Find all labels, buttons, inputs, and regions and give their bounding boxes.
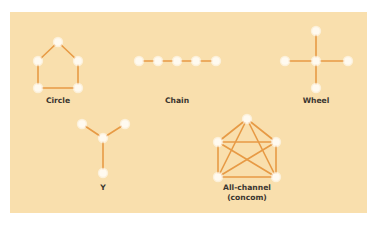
edge <box>218 119 247 142</box>
network-all-channel: All-channel(concom) <box>213 114 281 202</box>
network-label: Chain <box>165 96 189 105</box>
node <box>74 57 82 65</box>
node <box>272 173 280 181</box>
node <box>312 84 320 92</box>
node <box>243 115 251 123</box>
node <box>74 84 82 92</box>
node <box>34 57 42 65</box>
node <box>212 57 220 65</box>
node <box>214 138 222 146</box>
node <box>135 57 143 65</box>
node <box>344 57 352 65</box>
node <box>54 38 62 46</box>
network-circle: Circle <box>33 37 83 105</box>
network-label: (concom) <box>227 193 267 202</box>
node <box>214 173 222 181</box>
node <box>78 120 86 128</box>
network-diagram: Circle Chain Wheel Y All-channel(concom) <box>0 0 382 227</box>
node <box>281 57 289 65</box>
network-label: Circle <box>46 96 70 105</box>
node <box>34 84 42 92</box>
node <box>173 57 181 65</box>
node <box>272 138 280 146</box>
edge <box>247 119 276 142</box>
node <box>99 134 107 142</box>
network-y: Y <box>77 119 130 192</box>
network-label: All-channel <box>223 183 271 192</box>
network-wheel: Wheel <box>280 26 353 105</box>
node <box>312 57 320 65</box>
node <box>192 57 200 65</box>
network-label: Wheel <box>303 96 330 105</box>
node <box>99 169 107 177</box>
node <box>312 27 320 35</box>
node <box>121 120 129 128</box>
node <box>154 57 162 65</box>
network-chain: Chain <box>134 56 221 105</box>
network-label: Y <box>99 183 106 192</box>
